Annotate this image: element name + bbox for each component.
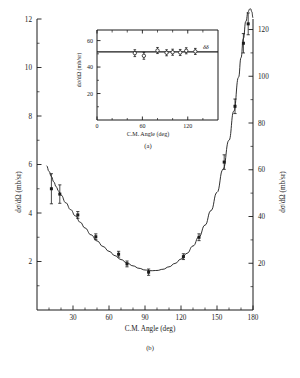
figure-canvas: 3060901201501802468101220406080100120 C.…: [0, 0, 300, 378]
data-marker-square: [126, 262, 129, 265]
data-marker-square: [117, 253, 120, 256]
main-y-tick-label: 2: [28, 258, 32, 266]
main-point-group: [125, 261, 128, 267]
data-marker-circle: [142, 54, 145, 57]
main-y-tick-label-right: 120: [258, 26, 269, 34]
data-marker-circle: [178, 51, 181, 54]
main-x-tick-label: 120: [176, 314, 187, 322]
main-y-tick-label: 8: [28, 113, 32, 121]
panel-label-b: (b): [146, 344, 154, 352]
main-y-tick-label-right: 40: [258, 213, 266, 221]
inset-x-tick-label: 0: [96, 123, 99, 129]
data-marker-square: [76, 213, 79, 216]
main-y-axis-label: dσ/dΩ (mb/sr): [15, 171, 23, 213]
main-x-tick-label: 150: [212, 314, 223, 322]
main-x-tick-label: 90: [141, 314, 149, 322]
main-y-axis-label-right: dσ/dΩ (mb/sr): [279, 171, 287, 213]
inset-y-tick-label: 20: [87, 91, 93, 97]
main-x-axis-label: C.M. Angle (deg): [125, 325, 176, 333]
data-marker-circle: [185, 49, 188, 52]
main-y-tick-label: 4: [28, 210, 32, 218]
inset-x-axis-label: C.M. Angle (deg): [127, 131, 169, 138]
data-marker-circle: [194, 50, 197, 53]
inset-x-tick-label: 120: [183, 123, 192, 129]
data-marker-square: [247, 22, 250, 25]
main-y-tick-label: 6: [28, 161, 32, 169]
inset-y-tick-label: 40: [87, 64, 93, 70]
main-point-group: [58, 185, 61, 203]
data-marker-square: [198, 236, 201, 239]
data-marker-square: [182, 255, 185, 258]
main-point-group: [197, 234, 200, 241]
data-marker-square: [234, 105, 237, 108]
main-y-tick-label: 12: [25, 16, 33, 24]
inset-plot: 060120204060 δδ C.M. Angle (deg) dσ/dΩ (…: [72, 22, 218, 150]
main-point-group: [117, 251, 120, 257]
inset-annotation: δδ: [203, 43, 210, 50]
inset-y-tick-label: 60: [87, 38, 93, 44]
panel-label-a: (a): [144, 142, 151, 150]
main-x-tick-label: 180: [248, 314, 259, 322]
main-x-tick-label: 60: [105, 314, 113, 322]
figure-root: 3060901201501802468101220406080100120 C.…: [0, 0, 300, 378]
main-y-tick-label: 10: [25, 64, 33, 72]
main-y-tick-label-right: 60: [258, 166, 266, 174]
inset-x-tick-label: 60: [139, 123, 145, 129]
data-marker-square: [94, 235, 97, 238]
data-marker-square: [147, 271, 150, 274]
data-marker-square: [58, 193, 61, 196]
data-marker-circle: [133, 51, 136, 54]
data-marker-square: [242, 42, 245, 45]
inset-background: [72, 22, 218, 148]
main-y-tick-label-right: 100: [258, 73, 269, 81]
data-marker-circle: [171, 51, 174, 54]
data-marker-square: [50, 187, 53, 190]
data-marker-circle: [165, 51, 168, 54]
main-y-tick-label-right: 20: [258, 260, 266, 268]
data-marker-square: [223, 161, 226, 164]
data-marker-circle: [156, 49, 159, 52]
main-y-tick-label-right: 80: [258, 120, 266, 128]
inset-y-axis-label: dσ/dΩ (mb/sr): [76, 53, 83, 88]
main-x-tick-label: 30: [69, 314, 77, 322]
